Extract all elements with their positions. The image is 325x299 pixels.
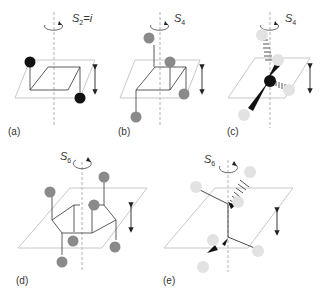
operation-label-a: S2=i	[72, 12, 92, 26]
atom-light	[244, 166, 256, 178]
atom-black-center	[264, 75, 276, 87]
atom-light	[272, 54, 284, 66]
operation-label-d: S6	[60, 150, 71, 164]
operation-label-e: S6	[204, 153, 215, 167]
square-frame	[30, 67, 80, 90]
panel-a	[15, 12, 95, 125]
atom-light	[190, 181, 202, 193]
panel-label-e: (e)	[163, 275, 175, 286]
atom-gray	[165, 57, 176, 68]
atom-gray	[110, 242, 121, 253]
panel-label-b: (b)	[118, 126, 130, 137]
atom-light	[207, 234, 219, 246]
square-frame	[136, 67, 186, 90]
atom-light	[256, 29, 268, 41]
atom-gray	[68, 236, 79, 247]
panel-label-a: (a)	[8, 126, 20, 137]
wedge-bond	[207, 245, 218, 253]
panel-label-c: (c)	[227, 126, 239, 137]
operation-label-c: S4	[285, 12, 296, 26]
panel-label-d: (d)	[16, 275, 28, 286]
atom-light	[197, 261, 209, 273]
panel-b	[120, 12, 202, 125]
atom-light	[232, 196, 244, 208]
panel-e	[164, 160, 293, 273]
atom-black	[25, 57, 36, 68]
atom-gray	[144, 33, 155, 44]
operation-label-b: S4	[174, 12, 185, 26]
atom-gray	[131, 112, 142, 123]
panel-d	[18, 157, 147, 270]
atom-black	[75, 93, 86, 104]
atom-light	[238, 109, 250, 121]
symmetry-figure	[0, 0, 325, 299]
atom-light	[252, 245, 264, 257]
atom-gray	[99, 172, 110, 183]
atom-gray	[45, 187, 56, 198]
wedge-bond	[248, 82, 268, 111]
wedge-bond	[222, 238, 228, 246]
atom-light	[283, 84, 295, 96]
cyclohexane-ring	[52, 205, 116, 233]
atom-gray	[179, 89, 190, 100]
atom-gray	[89, 200, 100, 211]
atom-gray	[57, 257, 68, 268]
panel-c	[228, 12, 310, 128]
